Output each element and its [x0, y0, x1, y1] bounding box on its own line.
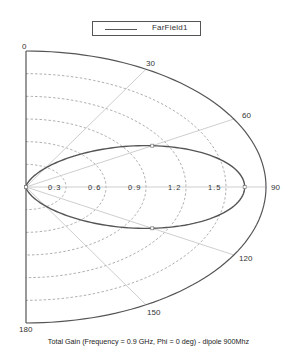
data-marker	[25, 186, 28, 189]
angle-tick-label-90: 90	[271, 183, 280, 192]
data-marker	[151, 227, 154, 230]
angle-tick-label-30: 30	[146, 59, 155, 68]
polar-chart: 03060901201501800.30.60.91.21.5	[0, 0, 297, 349]
radial-tick-label: 1.2	[168, 183, 181, 192]
radial-tick-label: 0.9	[128, 183, 141, 192]
data-marker	[243, 186, 246, 189]
radial-tick-label: 1.5	[208, 183, 221, 192]
radial-tick-label: 0.3	[48, 183, 61, 192]
angle-tick-label-60: 60	[242, 111, 251, 120]
angle-tick-label-120: 120	[239, 254, 253, 263]
angle-tick-label-180: 180	[19, 325, 33, 334]
legend-label: FarField1	[152, 23, 188, 32]
legend: FarField1	[92, 21, 201, 36]
radial-tick-label: 0.6	[88, 183, 101, 192]
tick-labels: 03060901201501800.30.60.91.21.5	[19, 42, 280, 334]
legend-line-swatch	[105, 29, 137, 30]
angle-tick-label-0: 0	[22, 42, 27, 51]
angle-spokes	[26, 69, 266, 305]
chart-caption: Total Gain (Frequency = 0.9 GHz, Phi = 0…	[0, 337, 297, 346]
data-marker	[151, 144, 154, 147]
angle-tick-label-150: 150	[147, 308, 161, 317]
